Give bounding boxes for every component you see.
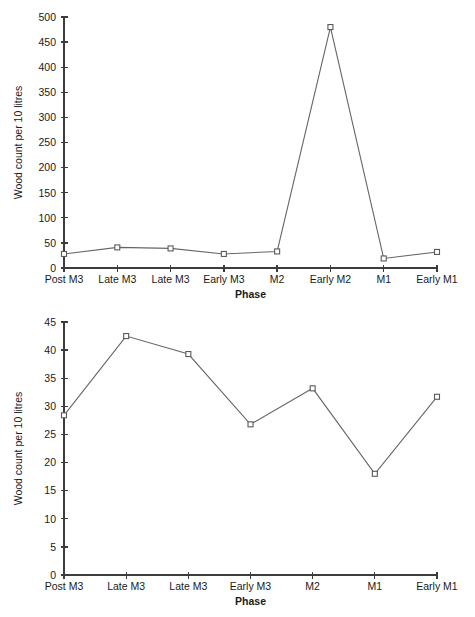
figure-page: 050100150200250300350400450500Post M3Lat… <box>0 0 475 617</box>
y-tick-label: 25 <box>44 428 56 440</box>
y-tick-label: 15 <box>44 484 56 496</box>
x-tick-label: Early M1 <box>416 580 458 592</box>
series-line <box>64 336 437 474</box>
y-tick-label: 450 <box>38 36 56 48</box>
y-tick-label: 350 <box>38 86 56 98</box>
x-tick-label: M1 <box>368 580 383 592</box>
data-point-marker <box>435 249 440 254</box>
y-tick-label: 100 <box>38 212 56 224</box>
y-axis-title: Wood count per 10 litres <box>12 392 24 506</box>
y-tick-label: 300 <box>38 111 56 123</box>
x-tick-label: M2 <box>270 273 285 285</box>
x-tick-label: Early M3 <box>203 273 245 285</box>
data-point-marker <box>310 386 315 391</box>
y-tick-label: 40 <box>44 344 56 356</box>
x-tick-label: M2 <box>305 580 320 592</box>
y-tick-label: 10 <box>44 513 56 525</box>
data-point-marker <box>115 245 120 250</box>
data-point-marker <box>168 246 173 251</box>
x-tick-label: Late M3 <box>152 273 190 285</box>
x-tick-label: Early M3 <box>230 580 272 592</box>
x-tick-label: Post M3 <box>45 273 84 285</box>
data-point-marker <box>186 352 191 357</box>
y-tick-label: 35 <box>44 372 56 384</box>
y-tick-label: 20 <box>44 456 56 468</box>
x-tick-label: Late M3 <box>107 580 145 592</box>
x-axis-title: Phase <box>235 288 266 300</box>
x-tick-label: Late M3 <box>98 273 136 285</box>
chart-bottom-canvas: 051015202530354045Post M3Late M3Late M3E… <box>0 305 475 617</box>
y-tick-label: 0 <box>50 569 56 581</box>
data-point-marker <box>248 422 253 427</box>
data-point-marker <box>372 471 377 476</box>
data-point-marker <box>328 25 333 30</box>
y-tick-label: 30 <box>44 400 56 412</box>
x-tick-label: M1 <box>376 273 391 285</box>
chart-bottom: 051015202530354045Post M3Late M3Late M3E… <box>0 305 475 617</box>
y-tick-label: 50 <box>44 237 56 249</box>
y-tick-label: 0 <box>50 262 56 274</box>
y-axis-title: Wood count per 10 litres <box>12 86 24 200</box>
series-line <box>64 27 437 258</box>
data-point-marker <box>124 334 129 339</box>
data-point-marker <box>275 249 280 254</box>
x-tick-label: Early M2 <box>310 273 352 285</box>
x-tick-label: Early M1 <box>416 273 458 285</box>
y-tick-label: 250 <box>38 136 56 148</box>
chart-top: 050100150200250300350400450500Post M3Lat… <box>0 0 475 305</box>
data-point-marker <box>435 394 440 399</box>
data-point-marker <box>62 251 67 256</box>
data-point-marker <box>221 251 226 256</box>
y-tick-label: 45 <box>44 316 56 328</box>
y-tick-label: 400 <box>38 61 56 73</box>
y-tick-label: 500 <box>38 11 56 23</box>
x-tick-label: Post M3 <box>45 580 84 592</box>
y-tick-label: 150 <box>38 187 56 199</box>
y-tick-label: 200 <box>38 161 56 173</box>
data-point-marker <box>62 413 67 418</box>
y-tick-label: 5 <box>50 541 56 553</box>
x-tick-label: Late M3 <box>169 580 207 592</box>
x-axis-title: Phase <box>235 595 266 607</box>
data-point-marker <box>381 256 386 261</box>
chart-top-canvas: 050100150200250300350400450500Post M3Lat… <box>0 0 475 305</box>
